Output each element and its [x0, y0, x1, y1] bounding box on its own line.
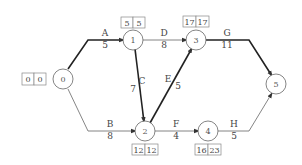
node-5: 5: [266, 74, 286, 94]
node-4-times: 16 23: [195, 144, 221, 155]
node-2-label: 2: [142, 127, 147, 136]
node-1-label: 1: [130, 36, 135, 45]
node-0-earliest: 0: [25, 75, 30, 84]
activity-E-duration: 5: [175, 81, 181, 91]
activity-D-duration: 8: [161, 40, 167, 50]
node-3-earliest: 17: [184, 18, 194, 27]
activity-C-name: C: [139, 76, 146, 86]
node-2-times: 12 12: [132, 144, 158, 155]
node-0-times: 0 0: [22, 73, 46, 85]
activity-G-duration: 11: [221, 40, 232, 50]
node-0-latest: 0: [37, 75, 42, 84]
activity-C-duration: 7: [130, 84, 136, 94]
activity-E-name: E: [165, 74, 172, 84]
node-4-earliest: 16: [196, 146, 206, 155]
activity-A-name: A: [101, 28, 109, 38]
node-1-earliest: 5: [124, 19, 129, 28]
node-1: 1: [123, 30, 143, 50]
activity-H-duration: 5: [231, 131, 237, 141]
node-1-latest: 5: [136, 19, 141, 28]
activity-G-name: G: [223, 28, 230, 38]
node-0: 0: [53, 69, 73, 89]
node-3: 3: [186, 30, 206, 50]
activity-F-duration: 4: [173, 131, 179, 141]
node-2-earliest: 12: [133, 146, 143, 155]
node-5-label: 5: [273, 80, 278, 89]
activity-H-arrow: [217, 93, 272, 131]
activity-G-arrow: [205, 40, 272, 76]
node-2: 2: [135, 121, 155, 141]
activity-A-duration: 5: [102, 40, 108, 50]
node-3-latest: 17: [197, 18, 207, 27]
node-4-label: 4: [205, 127, 210, 136]
activity-labels: A 5 B 8 C 7 D 8 E 5 F 4 G 11 H 5: [101, 28, 238, 141]
activity-A-arrow: [68, 40, 124, 69]
activity-F-name: F: [173, 119, 179, 129]
network-diagram: A 5 B 8 C 7 D 8 E 5 F 4 G 11 H 5 0 1 3 2…: [0, 0, 302, 165]
node-3-label: 3: [193, 36, 198, 45]
node-2-latest: 12: [146, 146, 156, 155]
activity-B-name: B: [107, 119, 114, 129]
activity-B-arrow: [68, 89, 136, 131]
node-3-times: 17 17: [183, 16, 209, 27]
activity-E-arrow: [150, 48, 192, 123]
node-4-latest: 23: [209, 146, 219, 155]
node-4: 4: [198, 121, 218, 141]
activity-B-duration: 8: [107, 131, 113, 141]
node-0-label: 0: [60, 75, 65, 84]
activity-D-name: D: [160, 28, 167, 38]
activity-H-name: H: [230, 119, 238, 129]
node-1-times: 5 5: [121, 17, 145, 28]
